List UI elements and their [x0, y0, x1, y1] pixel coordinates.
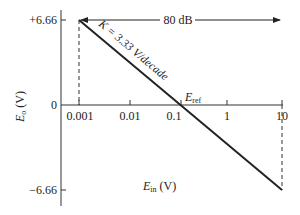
- x-tick-01: 0.1: [167, 109, 182, 123]
- slope-label: K = 3.33 V/decade: [96, 17, 171, 83]
- x-tick-0001: 0.001: [67, 109, 94, 123]
- x-tick-10: 10: [276, 109, 288, 123]
- range-label: 80 dB: [163, 13, 192, 27]
- y-axis-label: Eo (V): [13, 91, 28, 123]
- log-amplifier-chart: 80 dB K = 3.33 V/decade Eref +6.66 0 −6.…: [0, 0, 300, 215]
- y-tick-zero: 0: [51, 98, 57, 112]
- y-tick-bottom: −6.66: [29, 183, 57, 197]
- x-axis-label: Ein (V): [142, 179, 176, 194]
- y-tick-top: +6.66: [29, 13, 57, 27]
- x-tick-001: 0.01: [120, 109, 141, 123]
- x-tick-1: 1: [224, 109, 230, 123]
- eref-label: Eref: [184, 90, 202, 105]
